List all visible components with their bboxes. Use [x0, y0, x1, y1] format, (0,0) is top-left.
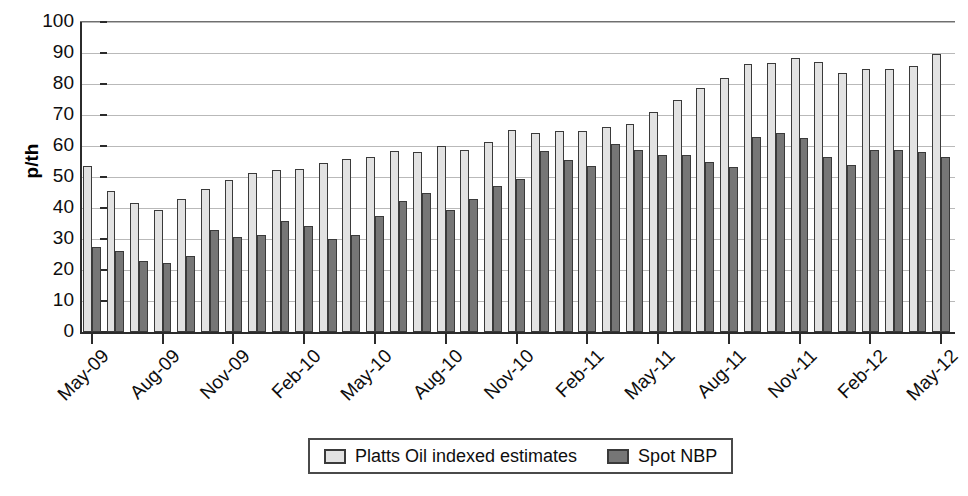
bar-group	[340, 22, 364, 332]
x-axis-labels: May-09Aug-09Nov-09Feb-10May-10Aug-10Nov-…	[80, 345, 968, 415]
bar-platts-oil-indexed	[814, 62, 823, 332]
y-tick-label: 30	[34, 228, 74, 247]
bar-platts-oil-indexed	[201, 189, 210, 332]
bar-group	[906, 22, 930, 332]
bar-platts-oil-indexed	[295, 169, 304, 332]
bar-group	[410, 22, 434, 332]
bar-spot-nbp	[163, 263, 172, 332]
x-tick-mark	[232, 334, 234, 344]
y-tick-label: 20	[34, 259, 74, 278]
bar-chart: p/th 1009080706050403020100 May-09Aug-09…	[0, 0, 968, 496]
bar-spot-nbp	[870, 150, 879, 332]
y-tick-label: 100	[34, 11, 74, 30]
bar-group	[599, 22, 623, 332]
bar-spot-nbp	[139, 261, 148, 332]
bar-group	[552, 22, 576, 332]
legend-swatch-icon	[324, 449, 346, 464]
bar-platts-oil-indexed	[437, 146, 446, 332]
bar-spot-nbp	[729, 167, 738, 332]
bar-platts-oil-indexed	[225, 180, 234, 332]
bar-group	[575, 22, 599, 332]
bar-group	[387, 22, 411, 332]
bar-platts-oil-indexed	[413, 152, 422, 332]
bar-spot-nbp	[233, 237, 242, 332]
legend-label: Platts Oil indexed estimates	[355, 446, 577, 467]
y-tick-label: 60	[34, 135, 74, 154]
bar-platts-oil-indexed	[909, 66, 918, 332]
bar-platts-oil-indexed	[272, 170, 281, 332]
bar-group	[835, 22, 859, 332]
legend-item: Spot NBP	[607, 446, 717, 467]
bar-group	[198, 22, 222, 332]
bar-group	[316, 22, 340, 332]
bar-spot-nbp	[281, 221, 290, 332]
bar-spot-nbp	[540, 151, 549, 332]
bar-platts-oil-indexed	[885, 69, 894, 332]
chart-legend: Platts Oil indexed estimatesSpot NBP	[308, 438, 733, 474]
bar-platts-oil-indexed	[107, 191, 116, 332]
bar-platts-oil-indexed	[508, 130, 517, 332]
bar-spot-nbp	[210, 230, 219, 332]
bar-platts-oil-indexed	[366, 157, 375, 332]
x-tick-mark	[869, 334, 871, 344]
bar-spot-nbp	[705, 162, 714, 332]
x-tick-mark	[586, 334, 588, 344]
bar-group	[222, 22, 246, 332]
bar-platts-oil-indexed	[696, 88, 705, 332]
x-tick-mark	[799, 334, 801, 344]
bar-platts-oil-indexed	[791, 58, 800, 332]
bar-platts-oil-indexed	[767, 63, 776, 332]
bar-platts-oil-indexed	[390, 151, 399, 332]
bar-spot-nbp	[115, 251, 124, 332]
y-tick-label: 90	[34, 42, 74, 61]
bar-group	[788, 22, 812, 332]
bar-spot-nbp	[257, 235, 266, 332]
y-tick-label: 70	[34, 104, 74, 123]
bar-platts-oil-indexed	[319, 163, 328, 332]
y-tick-label: 80	[34, 73, 74, 92]
bar-spot-nbp	[682, 155, 691, 332]
bar-group	[623, 22, 647, 332]
bar-platts-oil-indexed	[248, 173, 257, 332]
bar-group	[505, 22, 529, 332]
legend-swatch-icon	[607, 449, 629, 464]
bar-spot-nbp	[304, 226, 313, 332]
x-tick-mark	[728, 334, 730, 344]
bar-group	[434, 22, 458, 332]
bar-group	[80, 22, 104, 332]
bar-group	[859, 22, 883, 332]
bar-platts-oil-indexed	[602, 127, 611, 332]
bar-spot-nbp	[800, 138, 809, 332]
y-tick-label: 10	[34, 290, 74, 309]
bar-platts-oil-indexed	[932, 54, 941, 332]
bar-spot-nbp	[446, 210, 455, 332]
bar-platts-oil-indexed	[744, 64, 753, 332]
bar-group	[764, 22, 788, 332]
bar-group	[458, 22, 482, 332]
bar-platts-oil-indexed	[720, 78, 729, 332]
bar-group	[174, 22, 198, 332]
bar-spot-nbp	[493, 186, 502, 332]
bar-group	[104, 22, 128, 332]
bar-spot-nbp	[351, 235, 360, 332]
x-tick-mark	[940, 334, 942, 344]
bar-spot-nbp	[611, 144, 620, 332]
bar-spot-nbp	[516, 179, 525, 332]
bar-group	[693, 22, 717, 332]
bar-spot-nbp	[399, 201, 408, 332]
bar-platts-oil-indexed	[460, 150, 469, 332]
legend-item: Platts Oil indexed estimates	[324, 446, 577, 467]
legend-label: Spot NBP	[638, 446, 717, 467]
bar-spot-nbp	[92, 247, 101, 332]
y-tick-label: 0	[34, 321, 74, 340]
bar-spot-nbp	[587, 166, 596, 332]
bar-platts-oil-indexed	[555, 131, 564, 333]
bar-spot-nbp	[823, 157, 832, 332]
bar-platts-oil-indexed	[578, 131, 587, 333]
bar-platts-oil-indexed	[673, 100, 682, 333]
bar-group	[882, 22, 906, 332]
x-tick-mark	[303, 334, 305, 344]
bar-group	[741, 22, 765, 332]
bar-platts-oil-indexed	[484, 142, 493, 332]
bar-group	[646, 22, 670, 332]
